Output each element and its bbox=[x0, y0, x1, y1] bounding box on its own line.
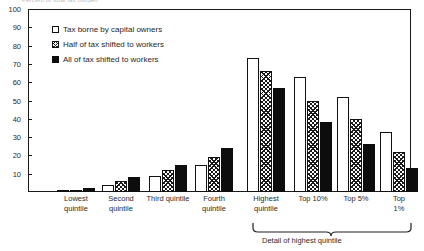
bar bbox=[273, 88, 286, 192]
legend-item: Tax borne by capital owners bbox=[52, 22, 202, 37]
bar bbox=[363, 144, 376, 192]
y-tick-label: 100 bbox=[8, 5, 21, 14]
bar bbox=[393, 152, 406, 192]
x-tick-label: Fourth quintile bbox=[202, 194, 226, 213]
bar bbox=[350, 119, 363, 192]
bar bbox=[320, 122, 333, 192]
bar bbox=[260, 71, 273, 192]
bar bbox=[406, 168, 419, 192]
y-tick-label: 80 bbox=[13, 41, 21, 50]
x-tick-label: Top 10% bbox=[298, 194, 327, 204]
x-tick-label: Top 5% bbox=[343, 194, 368, 204]
y-axis: 102030405060708090100 bbox=[0, 0, 28, 201]
x-tick-label: Highest quintile bbox=[253, 194, 278, 213]
x-tick-label: Second quintile bbox=[108, 194, 133, 213]
brace-svg bbox=[252, 223, 412, 237]
legend-item-label: All of tax shifted to workers bbox=[63, 55, 159, 64]
legend-item-label: Tax borne by capital owners bbox=[63, 25, 162, 34]
bar-chart: Percent of total tax burden 102030405060… bbox=[0, 0, 424, 251]
x-tick-label: Top 1% bbox=[393, 194, 405, 213]
y-tick-label: 50 bbox=[13, 96, 21, 105]
filled-black-square-icon bbox=[52, 56, 59, 63]
bar bbox=[221, 148, 234, 192]
bar bbox=[128, 177, 141, 192]
y-tick-label: 20 bbox=[13, 151, 21, 160]
y-tick-label: 10 bbox=[13, 169, 21, 178]
x-tick-label: Lowest quintile bbox=[64, 194, 88, 213]
chart-legend: Tax borne by capital owners Half of tax … bbox=[52, 22, 202, 67]
bar bbox=[57, 190, 70, 192]
y-tick-label: 40 bbox=[13, 114, 21, 123]
bar bbox=[149, 176, 162, 192]
y-tick-label: 60 bbox=[13, 78, 21, 87]
y-tick-label: 70 bbox=[13, 59, 21, 68]
bar bbox=[195, 165, 208, 192]
detail-brace-icon bbox=[252, 223, 412, 237]
bar bbox=[102, 185, 115, 192]
legend-item: Half of tax shifted to workers bbox=[52, 37, 202, 52]
bar bbox=[175, 165, 188, 192]
bar bbox=[337, 97, 350, 192]
y-tick-label: 90 bbox=[13, 23, 21, 32]
bar bbox=[115, 181, 128, 192]
bar bbox=[380, 132, 393, 192]
brace-label: Detail of highest quintile bbox=[262, 236, 342, 245]
y-tick-label: 30 bbox=[13, 133, 21, 142]
legend-item: All of tax shifted to workers bbox=[52, 52, 202, 67]
bar bbox=[307, 101, 320, 193]
bar bbox=[162, 170, 175, 192]
bar bbox=[208, 157, 221, 192]
bar bbox=[247, 58, 260, 192]
x-axis-labels: Lowest quintileSecond quintileThird quin… bbox=[28, 194, 411, 224]
hatched-square-icon bbox=[52, 41, 59, 48]
open-white-square-icon bbox=[52, 26, 59, 33]
bar bbox=[70, 190, 83, 192]
clipped-axis-title: Percent of total tax burden bbox=[22, 0, 98, 3]
legend-item-label: Half of tax shifted to workers bbox=[63, 40, 164, 49]
x-tick-label: Third quintile bbox=[147, 194, 190, 204]
bar bbox=[83, 188, 96, 192]
bar bbox=[294, 77, 307, 192]
